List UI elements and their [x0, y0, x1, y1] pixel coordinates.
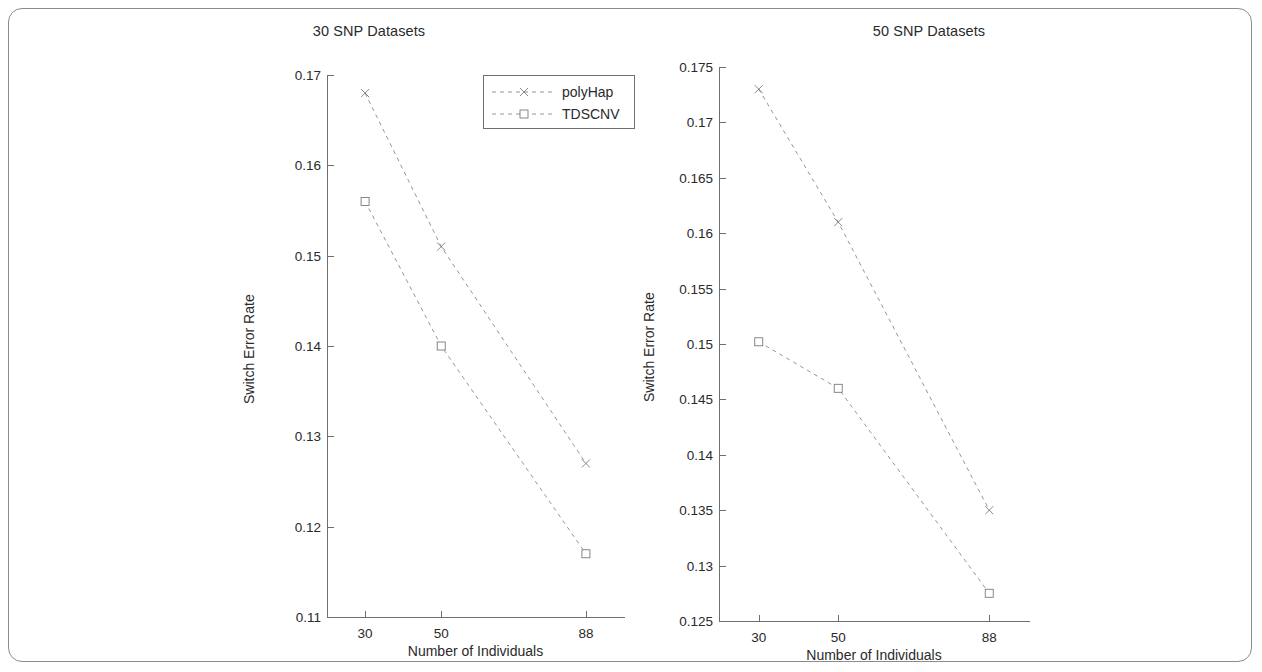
data-point-tdscnv: [582, 550, 590, 558]
data-point-polyhap: [437, 243, 445, 251]
data-point-polyhap: [361, 89, 369, 97]
series-line-polyhap: [365, 93, 586, 463]
legend-marker-square-icon: [492, 107, 556, 121]
series-line-tdscnv: [365, 201, 586, 553]
legend-item-polyhap[interactable]: polyHap: [484, 81, 634, 103]
legend-label: polyHap: [562, 84, 613, 100]
data-point-polyhap: [834, 218, 842, 226]
chart-legend: polyHapTDSCNV: [483, 75, 635, 129]
data-point-tdscnv: [755, 338, 763, 346]
chart-panel-50-snp: 50 SNP Datasets 0.1250.130.1350.140.1450…: [639, 9, 1253, 663]
chart-panel-30-snp: 30 SNP Datasets 0.110.120.130.140.150.16…: [9, 9, 639, 663]
legend-label: TDSCNV: [562, 106, 620, 122]
series-line-tdscnv: [759, 342, 990, 594]
data-point-tdscnv: [437, 342, 445, 350]
data-point-tdscnv: [361, 197, 369, 205]
data-point-polyhap: [985, 506, 993, 514]
data-point-tdscnv: [834, 384, 842, 392]
data-point-polyhap: [582, 459, 590, 467]
series-layer: [639, 9, 1262, 663]
data-point-tdscnv: [985, 589, 993, 597]
series-line-polyhap: [759, 89, 990, 510]
legend-item-tdscnv[interactable]: TDSCNV: [484, 103, 634, 125]
legend-marker-x-icon: [492, 85, 556, 99]
data-point-polyhap: [755, 85, 763, 93]
figure-frame: 30 SNP Datasets 0.110.120.130.140.150.16…: [8, 8, 1252, 662]
